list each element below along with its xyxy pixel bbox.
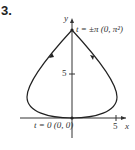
y-tick-5: 5 [62,68,67,78]
y-axis-arrow-icon [70,18,74,23]
direction-arrow-right-icon [90,55,94,60]
origin-label: t = 0 (0, 0) [34,120,73,130]
y-axis-label: y [64,13,68,23]
x-axis-arrow-icon [121,116,126,120]
x-tick-5: 5 [113,121,118,131]
apex-point [70,28,73,31]
apex-label: t = ±π (0, π²) [76,24,123,34]
x-axis-label: x [125,121,129,131]
